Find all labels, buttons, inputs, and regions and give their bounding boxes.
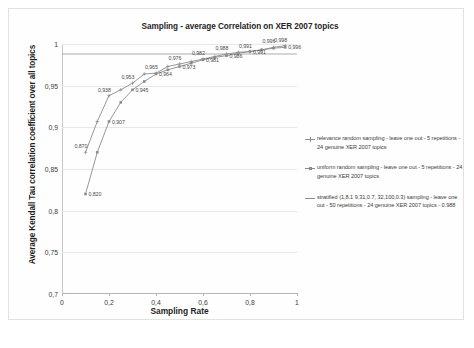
series-line-0 bbox=[86, 46, 286, 153]
data-point-marker bbox=[84, 151, 88, 155]
data-point-label: 0,907 bbox=[112, 119, 125, 125]
data-point-label: 0,953 bbox=[122, 74, 135, 80]
data-point-label: 0,938 bbox=[98, 87, 111, 93]
legend-entry-1: uniform random sampling - leave one out … bbox=[305, 163, 465, 180]
data-point-marker bbox=[155, 73, 158, 76]
data-point-marker bbox=[202, 59, 205, 62]
data-point-label: 0,870 bbox=[75, 143, 88, 149]
legend-label: relevance random sampling - leave one ou… bbox=[317, 135, 460, 150]
series-layer bbox=[62, 44, 297, 294]
data-point-label: 0,964 bbox=[159, 71, 172, 77]
data-point-marker bbox=[107, 94, 111, 98]
data-point-marker bbox=[119, 101, 122, 104]
legend-marker-plain-icon bbox=[305, 196, 315, 201]
data-point-label: 0,981 bbox=[206, 57, 219, 63]
data-point-marker bbox=[95, 120, 99, 124]
data-point-marker bbox=[272, 47, 275, 50]
chart-title: Sampling - average Correlation on XER 20… bbox=[100, 22, 380, 31]
x-tick-label: 0 bbox=[60, 299, 64, 306]
data-point-marker bbox=[225, 54, 228, 57]
data-point-label: 0,991 bbox=[239, 43, 252, 49]
data-point-label: 0,998 bbox=[274, 37, 287, 43]
data-point-label: 0,945 bbox=[136, 87, 149, 93]
y-axis-title: Average Kendall Tau correlation coeffici… bbox=[28, 45, 37, 265]
data-point-marker bbox=[249, 50, 252, 53]
legend-marker-cross-icon bbox=[305, 137, 315, 142]
y-tick-label: 0,8 bbox=[49, 207, 58, 214]
data-point-label: 0,996 bbox=[288, 44, 301, 50]
chart-figure: Sampling - average Correlation on XER 20… bbox=[0, 0, 474, 348]
legend-entry-0: relevance random sampling - leave one ou… bbox=[305, 134, 465, 151]
data-point-marker bbox=[178, 65, 181, 68]
data-point-label: 0,820 bbox=[89, 191, 102, 197]
legend-marker-square-icon bbox=[305, 166, 315, 171]
data-point-marker bbox=[143, 80, 146, 83]
y-tick-label: 0,9 bbox=[49, 124, 58, 131]
y-tick-label: 0,95 bbox=[45, 82, 58, 89]
data-point-marker bbox=[119, 88, 123, 92]
x-axis-title: Sampling Rate bbox=[62, 306, 297, 316]
data-point-label: 0,982 bbox=[192, 50, 205, 56]
y-tick-label: 0,75 bbox=[45, 249, 58, 256]
x-tick-label: 0,6 bbox=[198, 299, 207, 306]
chart-legend: relevance random sampling - leave one ou… bbox=[305, 134, 465, 222]
data-point-marker bbox=[96, 151, 99, 154]
data-point-label: 0,986 bbox=[230, 53, 243, 59]
data-point-label: 0,965 bbox=[145, 64, 158, 70]
data-point-marker bbox=[84, 193, 87, 196]
x-tick-label: 1 bbox=[295, 299, 299, 306]
data-point-marker bbox=[166, 65, 170, 69]
x-tick-label: 0,4 bbox=[151, 299, 160, 306]
data-point-label: 0,988 bbox=[216, 45, 229, 51]
legend-entry-2: stratified (1,8.1 9,31,0.7, 32,100,0.3) … bbox=[305, 193, 465, 210]
data-point-label: 0,991 bbox=[253, 49, 266, 55]
data-point-marker bbox=[108, 120, 111, 123]
data-point-marker bbox=[284, 46, 287, 49]
x-tick-label: 0,8 bbox=[245, 299, 254, 306]
legend-label: uniform random sampling - leave one out … bbox=[317, 164, 462, 179]
y-tick-label: 0,85 bbox=[45, 166, 58, 173]
legend-label: stratified (1,8.1 9,31,0.7, 32,100,0.3) … bbox=[317, 194, 457, 209]
data-point-label: 0,973 bbox=[183, 64, 196, 70]
data-point-label: 0,976 bbox=[169, 55, 182, 61]
data-point-marker bbox=[131, 89, 134, 92]
y-tick-label: 0,7 bbox=[49, 291, 58, 298]
y-tick-label: 1 bbox=[54, 41, 58, 48]
x-tick-label: 0,2 bbox=[104, 299, 113, 306]
plot-area: 0,70,750,80,850,90,951 00,20,40,60,81 0,… bbox=[62, 44, 297, 294]
x-tick-mark bbox=[297, 293, 298, 296]
